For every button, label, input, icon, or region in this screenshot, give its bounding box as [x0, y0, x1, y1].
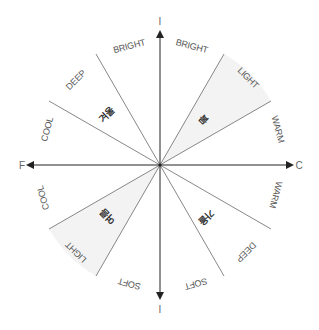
label-deep-bottom: DEEP: [234, 240, 258, 264]
label-cool-top: COOL: [39, 116, 55, 143]
label-soft-left: SOFT: [116, 276, 142, 292]
season-color-wheel: I I F C BRIGHT BRIGHT LIGHT WARM WARM DE…: [0, 0, 319, 330]
axis-label-right: C: [295, 160, 302, 171]
label-soft-right: SOFT: [183, 276, 209, 292]
label-bright-upper-left: BRIGHT: [112, 37, 147, 55]
axis-label-left: F: [19, 160, 25, 171]
label-bright-upper-right: BRIGHT: [175, 37, 210, 55]
season-autumn: 가을: [196, 207, 217, 228]
spring-sector: [160, 54, 271, 165]
axis-label-top: I: [159, 16, 162, 27]
label-warm-top: WARM: [270, 115, 287, 144]
axis-label-bottom: I: [159, 304, 162, 315]
label-deep-top: DEEP: [64, 68, 88, 92]
center-point: [159, 164, 162, 167]
label-cool-bottom: COOL: [35, 184, 51, 211]
season-winter: 겨울: [96, 104, 117, 125]
label-warm-bottom: WARM: [268, 180, 285, 209]
